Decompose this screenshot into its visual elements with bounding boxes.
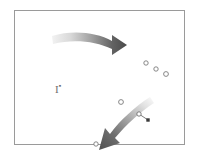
bottom-curved-arrow-down-left-icon [99,97,154,150]
circle-1 [144,61,148,65]
top-curved-arrow-right-icon [52,33,127,55]
axis-label-i: I▪ [55,82,61,95]
circle-3 [164,72,169,77]
filled-square-marker [146,118,149,121]
circle-5 [137,112,141,116]
annotation-overlay [0,0,199,159]
circle-4 [119,100,124,105]
axis-label-i-superscript: ▪ [59,82,61,89]
circle-2 [154,67,158,71]
diagram-canvas: I▪ [0,0,199,159]
circle-6 [94,142,98,146]
